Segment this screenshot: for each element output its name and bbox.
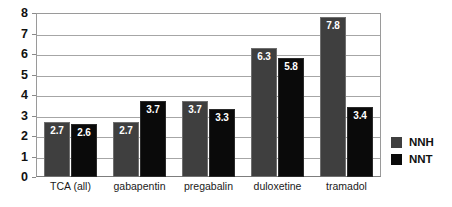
legend-label: NNH: [409, 137, 434, 149]
bar-nnh-duloxetine[interactable]: 6.3: [251, 48, 277, 177]
bar-nnt-tca-all[interactable]: 2.6: [71, 124, 97, 177]
y-tick-mark: [32, 13, 36, 14]
y-tick-label: 7: [21, 27, 28, 40]
y-tick-mark: [32, 95, 36, 96]
bar-nnh-tramadol[interactable]: 7.8: [320, 17, 346, 177]
bar-value-label: 2.7: [45, 125, 69, 136]
y-tick-label: 0: [21, 171, 28, 184]
bar-nnh-gabapentin[interactable]: 2.7: [113, 122, 139, 177]
category-label: TCA (all): [36, 180, 105, 193]
bar-value-label: 3.7: [141, 104, 165, 115]
legend-item-nnt[interactable]: NNT: [391, 151, 434, 168]
bar-value-label: 6.3: [252, 51, 276, 62]
bar-nnh-pregabalin[interactable]: 3.7: [182, 101, 208, 177]
bar-group: 3.73.3: [182, 13, 235, 177]
bar-group: 6.35.8: [251, 13, 304, 177]
x-axis-category-labels: TCA (all)gabapentinpregabalinduloxetinet…: [36, 180, 381, 200]
y-tick-mark: [32, 75, 36, 76]
bar-value-label: 3.4: [348, 110, 372, 121]
y-tick-label: 5: [21, 68, 28, 81]
y-tick-label: 6: [21, 48, 28, 61]
y-tick-mark: [32, 54, 36, 55]
bar-nnt-duloxetine[interactable]: 5.8: [278, 58, 304, 177]
category-label: gabapentin: [105, 180, 174, 193]
y-tick-label: 4: [21, 89, 28, 102]
bar-nnt-pregabalin[interactable]: 3.3: [209, 109, 235, 177]
bar-value-label: 2.6: [72, 127, 96, 138]
bar-nnt-tramadol[interactable]: 3.4: [347, 107, 373, 177]
y-axis: 876543210: [0, 0, 33, 207]
legend-swatch-icon: [391, 154, 402, 165]
y-tick-label: 8: [21, 7, 28, 20]
category-label: pregabalin: [174, 180, 243, 193]
y-tick-label: 2: [21, 130, 28, 143]
bar-value-label: 3.3: [210, 112, 234, 123]
y-tick-label: 1: [21, 150, 28, 163]
y-tick-mark: [32, 34, 36, 35]
legend-label: NNT: [409, 154, 433, 166]
category-label: tramadol: [312, 180, 381, 193]
y-tick-mark: [32, 116, 36, 117]
bars-layer: 2.72.62.73.73.73.36.35.87.83.4: [36, 13, 381, 177]
bar-nnh-tca-all[interactable]: 2.7: [44, 122, 70, 177]
bar-value-label: 2.7: [114, 125, 138, 136]
bar-nnt-gabapentin[interactable]: 3.7: [140, 101, 166, 177]
chart-legend: NNHNNT: [391, 134, 434, 168]
bar-group: 2.72.6: [44, 13, 97, 177]
bar-value-label: 3.7: [183, 104, 207, 115]
y-tick-mark: [32, 177, 36, 178]
bar-group: 2.73.7: [113, 13, 166, 177]
y-tick-label: 3: [21, 109, 28, 122]
y-tick-mark: [32, 136, 36, 137]
bar-value-label: 5.8: [279, 61, 303, 72]
bar-chart: 876543210 2.72.62.73.73.73.36.35.87.83.4…: [0, 0, 452, 207]
bar-value-label: 7.8: [321, 20, 345, 31]
y-tick-mark: [32, 157, 36, 158]
category-label: duloxetine: [243, 180, 312, 193]
legend-item-nnh[interactable]: NNH: [391, 134, 434, 151]
legend-swatch-icon: [391, 137, 402, 148]
bar-group: 7.83.4: [320, 13, 373, 177]
